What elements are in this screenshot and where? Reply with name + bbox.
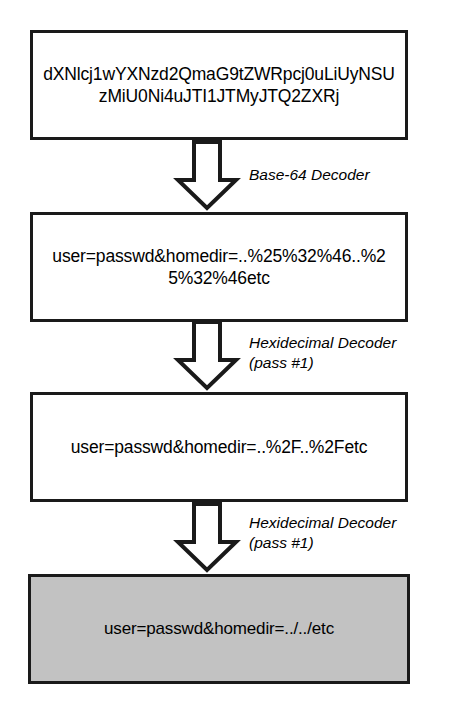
node-decoded-traversal-payload: user=passwd&homedir=../../etc — [28, 574, 410, 684]
down-arrow-hex-decoder-pass2 — [172, 502, 242, 574]
node-single-hex-text: user=passwd&homedir=..%2F..%2Fetc — [43, 436, 395, 458]
down-arrow-base64-decoder — [172, 140, 242, 212]
edge-label-hex2-line1: Hexidecimal Decoder — [249, 513, 396, 533]
edge-label-hex2-line2: (pass #1) — [249, 533, 396, 553]
edge-label-hex1-line1: Hexidecimal Decoder — [249, 333, 396, 353]
edge-label-hex-decoder-pass2: Hexidecimal Decoder (pass #1) — [249, 513, 396, 554]
down-arrow-hex-decoder-pass1 — [172, 320, 242, 392]
node-base64-encoded-payload: dXNlcj1wYXNzd2QmaG9tZWRpcj0uLiUyNSUzMiU0… — [30, 30, 408, 140]
node-base64-text: dXNlcj1wYXNzd2QmaG9tZWRpcj0uLiUyNSUzMiU0… — [43, 63, 395, 108]
decoding-flow-diagram: dXNlcj1wYXNzd2QmaG9tZWRpcj0uLiUyNSUzMiU0… — [0, 0, 451, 708]
edge-label-hex-decoder-pass1: Hexidecimal Decoder (pass #1) — [249, 333, 396, 374]
edge-label-base64-line1: Base-64 Decoder — [249, 165, 370, 185]
node-final-text: user=passwd&homedir=../../etc — [41, 618, 397, 640]
node-double-hex-text: user=passwd&homedir=..%25%32%46..%25%32%… — [43, 245, 395, 290]
node-single-hex-encoded-payload: user=passwd&homedir=..%2F..%2Fetc — [30, 392, 408, 502]
node-double-hex-encoded-payload: user=passwd&homedir=..%25%32%46..%25%32%… — [30, 212, 408, 322]
edge-label-base64-decoder: Base-64 Decoder — [249, 165, 370, 185]
edge-label-hex1-line2: (pass #1) — [249, 353, 396, 373]
